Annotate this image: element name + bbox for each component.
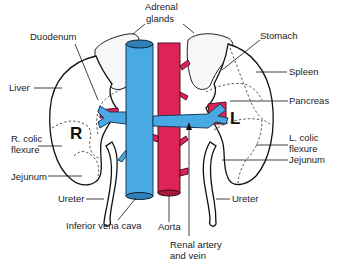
label-r-colic-flexure: R. colic [11, 133, 42, 144]
label-inferior-vena-cava: Inferior vena cava [66, 220, 142, 231]
kidney-relations-diagram: R L Adrenal glands Duodenum Stomach Live… [0, 0, 338, 271]
ivc-top-cut-end [126, 40, 153, 48]
label-ureter-right: Ureter [232, 193, 258, 204]
left-ureter [203, 142, 216, 226]
right-ureter [104, 142, 117, 226]
adrenal-leader-left [133, 24, 145, 34]
ivc-bottom-cut-end [126, 193, 153, 200]
ivc-leader [118, 198, 136, 220]
left-kidney-marker: L [230, 109, 240, 128]
label-renal-artery-vein: Renal artery [170, 239, 222, 250]
aorta-branch [180, 92, 188, 100]
label-r-colic-flexure-2: flexure [11, 144, 40, 155]
inferior-vena-cava [126, 44, 153, 196]
label-pancreas: Pancreas [289, 95, 329, 106]
label-l-colic-flexure: L. colic [289, 132, 319, 143]
adrenal-leader-right [183, 24, 194, 33]
label-stomach: Stomach [260, 30, 298, 41]
aorta-cut-end [158, 190, 180, 196]
label-spleen: Spleen [289, 66, 319, 77]
label-ureter-left: Ureter [58, 193, 84, 204]
label-l-colic-flexure-2: flexure [289, 143, 318, 154]
label-duodenum: Duodenum [30, 31, 77, 42]
label-adrenal-glands-2: glands [146, 13, 174, 24]
aorta-branch [180, 136, 188, 146]
label-jejunum-right: Jejunum [289, 154, 325, 165]
label-liver: Liver [9, 82, 30, 93]
label-aorta: Aorta [158, 221, 181, 232]
label-adrenal-glands: Adrenal [145, 1, 178, 12]
label-jejunum-left: Jejunum [11, 171, 47, 182]
right-kidney-marker: R [70, 124, 82, 143]
aorta-branch [180, 168, 188, 176]
gonadal-vein-branch [118, 150, 126, 162]
label-renal-artery-vein-2: and vein [170, 250, 206, 261]
